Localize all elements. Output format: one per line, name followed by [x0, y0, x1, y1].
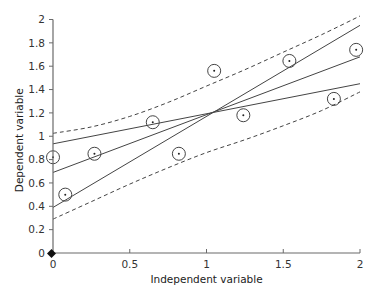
y-tick-label: 0 [38, 247, 45, 259]
y-axis-ticks: 00.20.40.60.811.21.41.61.82 [28, 13, 53, 258]
x-axis-ticks: 00.511.52 [50, 249, 364, 270]
data-point [237, 109, 250, 122]
x-tick-label: 0.5 [121, 258, 138, 270]
y-tick-label: 0.4 [28, 200, 45, 212]
y-tick-label: 1 [38, 130, 45, 142]
x-tick-label: 0 [50, 258, 57, 270]
y-tick-label: 1.2 [28, 107, 45, 119]
data-point [208, 64, 221, 77]
y-tick-label: 0.2 [28, 223, 45, 235]
axes: 00.511.52 00.20.40.60.811.21.41.61.82 [28, 13, 363, 270]
x-axis-title: Independent variable [150, 273, 262, 285]
dot-marker-icon [213, 70, 215, 72]
dot-marker-icon [288, 60, 290, 62]
data-point [350, 43, 363, 56]
y-tick-label: 0.8 [28, 153, 45, 165]
y-axis-title: Dependent variable [13, 88, 25, 192]
y-tick-label: 1.6 [28, 60, 45, 72]
regression-line [53, 57, 360, 173]
data-point [146, 116, 159, 129]
data-point [59, 188, 72, 201]
regression-line [53, 25, 360, 207]
x-tick-label: 1 [203, 258, 210, 270]
data-point [327, 92, 340, 105]
dot-marker-icon [178, 153, 180, 155]
x-tick-label: 1.5 [275, 258, 292, 270]
x-tick-label: 2 [357, 258, 364, 270]
dot-marker-icon [93, 153, 95, 155]
data-point [172, 147, 185, 160]
data-points [47, 43, 363, 201]
y-tick-label: 1.8 [28, 37, 45, 49]
scatter-regression-chart: 00.511.52 00.20.40.60.811.21.41.61.82 In… [0, 0, 379, 299]
series-layer [53, 16, 360, 219]
data-point [88, 147, 101, 160]
y-tick-label: 2 [38, 13, 45, 25]
y-tick-label: 1.4 [28, 83, 45, 95]
origin-diamond-icon [47, 249, 56, 258]
dot-marker-icon [242, 114, 244, 116]
dot-marker-icon [152, 121, 154, 123]
data-point [283, 54, 296, 67]
dot-marker-icon [355, 49, 357, 51]
y-tick-label: 0.6 [28, 177, 45, 189]
dot-marker-icon [64, 194, 66, 196]
dot-marker-icon [333, 98, 335, 100]
